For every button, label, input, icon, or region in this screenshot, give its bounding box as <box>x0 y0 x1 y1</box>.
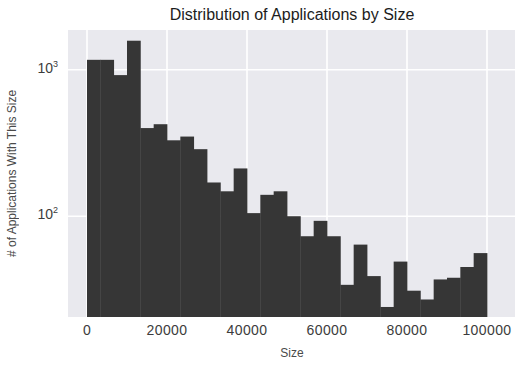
chart-title: Distribution of Applications by Size <box>170 6 415 24</box>
x-tick-label: 80000 <box>387 322 428 338</box>
histogram-bar <box>300 236 314 317</box>
histogram-bar <box>447 278 461 317</box>
histogram-bar <box>420 299 434 317</box>
x-tick-label: 40000 <box>227 322 268 338</box>
x-axis-label: Size <box>280 346 303 360</box>
x-tick-label: 20000 <box>147 322 188 338</box>
histogram-bar <box>100 60 114 317</box>
histogram-bar <box>327 236 341 317</box>
histogram-bar <box>207 182 221 317</box>
histogram-bar <box>434 279 448 317</box>
histogram-bar <box>194 149 208 317</box>
histogram-bar <box>314 221 328 317</box>
histogram-bar <box>220 191 234 317</box>
histogram-bar <box>287 216 301 317</box>
histogram-bar <box>460 267 474 317</box>
histogram-bar <box>114 75 128 317</box>
histogram-bar <box>274 191 288 317</box>
histogram-figure: Distribution of Applications by Size # o… <box>0 0 529 373</box>
histogram-bar <box>140 128 154 317</box>
x-tick-label: 0 <box>83 322 91 338</box>
histogram-bar <box>380 307 394 317</box>
histogram-bar <box>167 140 181 317</box>
y-tick-label: 103 <box>0 59 58 76</box>
y-tick-label: 102 <box>0 205 58 222</box>
histogram-bar <box>367 276 381 317</box>
histogram-bar <box>127 41 141 317</box>
histogram-bar <box>340 285 354 317</box>
histogram-bar <box>474 253 488 317</box>
x-tick-label: 60000 <box>307 322 348 338</box>
histogram-bar <box>154 124 168 317</box>
plot-area <box>68 30 515 317</box>
histogram-bar <box>394 262 408 317</box>
histogram-bar <box>247 213 261 317</box>
histogram-bar <box>260 195 274 317</box>
histogram-bar <box>234 168 248 317</box>
histogram-bar <box>87 60 101 317</box>
histogram-bar <box>407 291 421 317</box>
histogram-canvas <box>68 30 515 317</box>
histogram-bar <box>180 137 194 317</box>
histogram-bar <box>354 245 368 317</box>
x-tick-label: 100000 <box>462 322 511 338</box>
